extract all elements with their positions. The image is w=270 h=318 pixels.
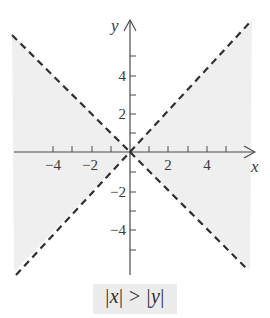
y-axis-label: y — [109, 16, 119, 35]
caption-abs-close-y: | — [160, 285, 165, 307]
x-tick-label-neg2: −2 — [82, 157, 98, 173]
caption-x-var: x — [110, 285, 119, 307]
inequality-graph: −4 −2 2 4 4 2 −2 −4 x y — [0, 0, 270, 318]
y-tick-label-2: 2 — [119, 106, 127, 122]
caption-y-var: y — [151, 285, 160, 307]
shaded-region-right — [130, 20, 252, 270]
x-tick-label-2: 2 — [164, 157, 172, 173]
x-tick-label-4: 4 — [203, 157, 211, 173]
y-tick-label-4: 4 — [119, 68, 127, 84]
caption-relation: > — [124, 285, 147, 307]
y-tick-label-neg2: −2 — [110, 184, 126, 200]
x-axis-label: x — [250, 157, 259, 176]
inequality-caption: |x| > |y| — [93, 285, 177, 308]
x-tick-label-neg4: −4 — [45, 157, 61, 173]
y-tick-label-neg4: −4 — [110, 222, 126, 238]
